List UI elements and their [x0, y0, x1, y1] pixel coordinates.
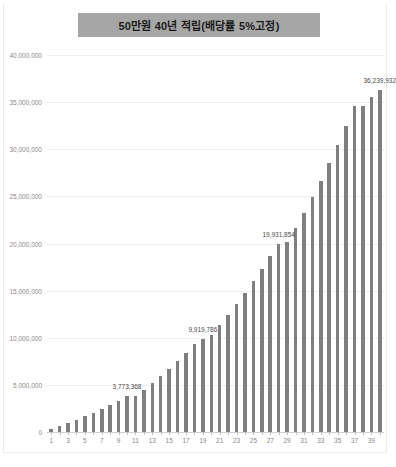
- x-axis-tick: [237, 432, 238, 435]
- x-axis-tick: [321, 432, 322, 435]
- x-axis-tick-label: 9: [117, 437, 121, 444]
- bar: [361, 106, 365, 432]
- x-axis-tick: [203, 432, 204, 435]
- x-axis-tick-label: 1: [49, 437, 53, 444]
- x-axis-tick: [127, 432, 128, 435]
- x-axis-tick: [304, 432, 305, 435]
- bar: [302, 213, 306, 432]
- frame-border-bottom: [3, 452, 387, 453]
- bar: [92, 413, 96, 432]
- x-axis-tick-label: 3: [66, 437, 70, 444]
- x-axis-tick: [287, 432, 288, 435]
- y-axis-tick-label: 40,000,000: [9, 52, 42, 59]
- x-axis-tick-label: 19: [199, 437, 206, 444]
- bar: [243, 293, 247, 432]
- x-axis-tick: [279, 432, 280, 435]
- bar: [353, 106, 357, 432]
- bars-layer: [47, 55, 384, 432]
- x-axis-tick-label: 37: [351, 437, 358, 444]
- x-axis-tick: [144, 432, 145, 435]
- bar-value-label: 19,931,854: [262, 231, 295, 238]
- bar: [159, 376, 163, 432]
- bar-value-label: 36,239,932: [364, 77, 396, 84]
- bar: [260, 269, 264, 432]
- x-axis-tick: [161, 432, 162, 435]
- x-axis-tick: [93, 432, 94, 435]
- x-axis-tick: [194, 432, 195, 435]
- x-axis-tick-label: 25: [250, 437, 257, 444]
- x-axis-tick: [152, 432, 153, 435]
- x-axis-tick: [169, 432, 170, 435]
- x-axis-tick: [119, 432, 120, 435]
- bar: [378, 90, 382, 432]
- x-axis-tick: [110, 432, 111, 435]
- bar-value-label: 9,919,786: [188, 326, 217, 333]
- x-axis-tick: [102, 432, 103, 435]
- bar: [66, 423, 70, 432]
- x-axis-tick: [135, 432, 136, 435]
- x-axis-tick-label: 31: [300, 437, 307, 444]
- bar-value-label: 3,773,368: [113, 383, 142, 390]
- bar: [167, 369, 171, 432]
- bar: [193, 344, 197, 432]
- bar: [151, 383, 155, 432]
- x-axis-tick: [371, 432, 372, 435]
- bar: [294, 228, 298, 432]
- x-axis-tick: [312, 432, 313, 435]
- x-axis-tick: [76, 432, 77, 435]
- bar: [117, 401, 121, 432]
- x-axis-tick: [60, 432, 61, 435]
- bar: [336, 145, 340, 432]
- bar: [235, 304, 239, 432]
- x-axis-tick: [186, 432, 187, 435]
- x-axis-tick: [51, 432, 52, 435]
- bar: [142, 390, 146, 432]
- x-axis-tick: [253, 432, 254, 435]
- x-axis-tick: [355, 432, 356, 435]
- x-axis-tick: [211, 432, 212, 435]
- chart-title-box: 50만원 40년 적립(배당률 5%고정): [78, 13, 320, 37]
- x-axis-line: [47, 432, 384, 433]
- y-axis-tick-label: 20,000,000: [9, 240, 42, 247]
- x-axis-tick-label: 5: [83, 437, 87, 444]
- x-axis-tick-label: 29: [283, 437, 290, 444]
- x-axis-tick: [262, 432, 263, 435]
- bar: [277, 244, 281, 432]
- x-axis-tick: [68, 432, 69, 435]
- bar: [218, 325, 222, 432]
- x-axis-tick: [338, 432, 339, 435]
- x-axis-tick: [220, 432, 221, 435]
- x-axis-tick-label: 39: [368, 437, 375, 444]
- x-axis-tick-label: 17: [182, 437, 189, 444]
- bar: [100, 409, 104, 432]
- bar: [201, 339, 205, 432]
- y-axis-tick-label: 15,000,000: [9, 287, 42, 294]
- x-axis-tick: [228, 432, 229, 435]
- x-axis-tick: [346, 432, 347, 435]
- x-axis-tick-label: 33: [317, 437, 324, 444]
- x-axis-tick: [296, 432, 297, 435]
- bar: [344, 126, 348, 432]
- y-axis-tick-label: 10,000,000: [9, 334, 42, 341]
- x-axis-tick-label: 27: [267, 437, 274, 444]
- x-axis-tick: [85, 432, 86, 435]
- frame-border-right: [386, 4, 387, 453]
- bar: [319, 181, 323, 432]
- x-axis-tick: [380, 432, 381, 435]
- bar: [83, 416, 87, 432]
- bar: [327, 163, 331, 432]
- bar: [226, 315, 230, 432]
- x-axis-tick: [270, 432, 271, 435]
- x-axis-tick-label: 35: [334, 437, 341, 444]
- bar: [108, 405, 112, 432]
- x-axis-tick-label: 7: [100, 437, 104, 444]
- plot-area: 05,000,00010,000,00015,000,00020,000,000…: [47, 55, 384, 432]
- y-axis-tick-label: 35,000,000: [9, 99, 42, 106]
- x-axis-tick: [178, 432, 179, 435]
- bar: [125, 396, 129, 432]
- bar: [268, 256, 272, 432]
- bar: [75, 420, 79, 432]
- bar: [311, 197, 315, 432]
- y-axis-tick-label: 25,000,000: [9, 193, 42, 200]
